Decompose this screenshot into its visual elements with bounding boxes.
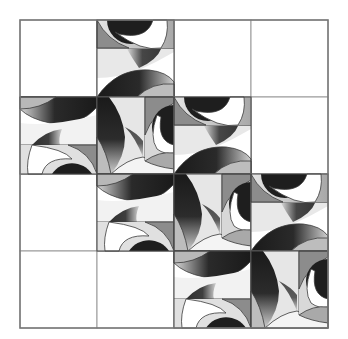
empty-cell[interactable] [251, 20, 328, 97]
empty-cell[interactable] [20, 251, 97, 328]
tile-C[interactable] [174, 251, 251, 328]
empty-cell[interactable] [20, 174, 97, 251]
empty-cell[interactable] [174, 20, 251, 97]
empty-cell[interactable] [251, 97, 328, 174]
tile-A[interactable] [97, 20, 174, 97]
empty-cell[interactable] [20, 20, 97, 97]
tile-B[interactable] [174, 174, 251, 251]
tile-B[interactable] [97, 97, 174, 174]
tile-A[interactable] [251, 174, 328, 251]
empty-cell[interactable] [97, 251, 174, 328]
tile-A[interactable] [174, 97, 251, 174]
tile-C[interactable] [97, 174, 174, 251]
pattern-board [0, 0, 348, 339]
tile-B[interactable] [251, 251, 328, 328]
tile-C[interactable] [20, 97, 97, 174]
